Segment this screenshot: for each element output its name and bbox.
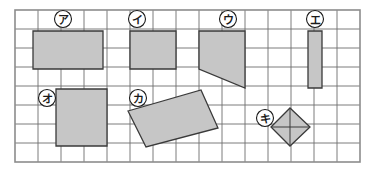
shape-o[interactable]: [56, 89, 107, 146]
worksheet-canvas: アイウエオカキ: [0, 0, 373, 173]
shape-e[interactable]: [308, 31, 322, 88]
shape-i-label-text: イ: [132, 14, 143, 26]
shapes-grid-figure: アイウエオカキ: [0, 0, 373, 173]
shape-u-label-text: ウ: [223, 14, 234, 26]
shape-ka-label-text: カ: [133, 93, 144, 105]
shape-ki-label-text: キ: [260, 113, 271, 125]
shape-e-label-text: エ: [310, 14, 321, 26]
shape-a[interactable]: [33, 31, 103, 69]
shape-i[interactable]: [130, 31, 176, 69]
shape-o-label-text: オ: [42, 93, 53, 105]
shape-a-label-text: ア: [58, 14, 69, 26]
